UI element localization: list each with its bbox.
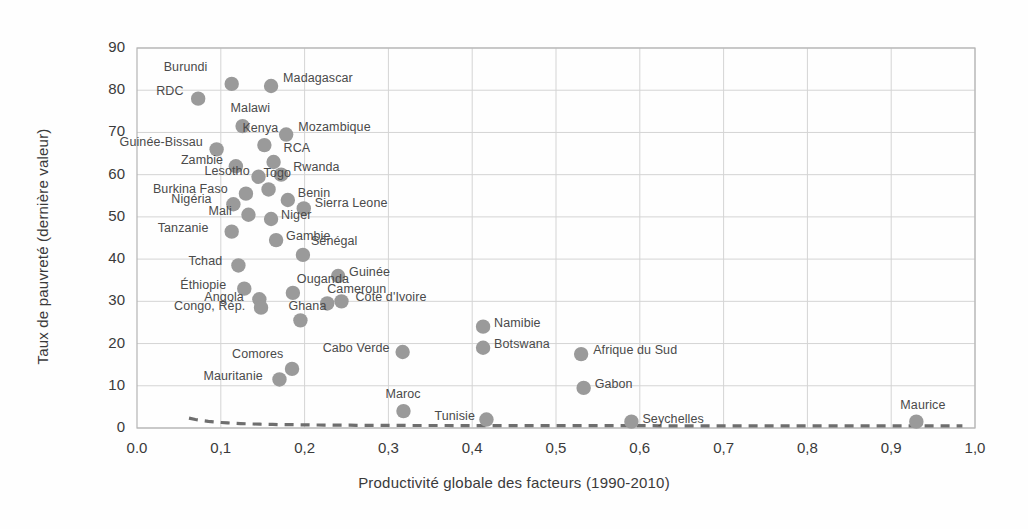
data-point-label: Botswana — [494, 337, 550, 351]
x-tick-label: 0,9 — [861, 439, 921, 456]
y-tick-label: 90 — [85, 38, 125, 55]
data-point-label: Tanzanie — [158, 221, 209, 235]
data-point-label: Namibie — [494, 316, 541, 330]
data-point-label: Mozambique — [298, 120, 371, 134]
x-tick-label: 0.0 — [107, 439, 167, 456]
data-point-label: Seychelles — [642, 412, 703, 426]
y-tick-label: 10 — [85, 376, 125, 393]
data-point — [264, 79, 278, 93]
data-point — [264, 212, 278, 226]
data-point — [191, 91, 205, 105]
data-point-label: Congo, Rép. — [174, 299, 245, 313]
y-tick-label: 30 — [85, 291, 125, 308]
data-point-label: Burundi — [164, 60, 208, 74]
data-point — [257, 138, 271, 152]
y-tick-label: 60 — [85, 165, 125, 182]
data-point — [476, 341, 490, 355]
data-point-label: RCA — [284, 141, 311, 155]
x-tick-label: 0,7 — [694, 439, 754, 456]
data-point-label: Sierra Leone — [315, 196, 388, 210]
data-point — [224, 224, 238, 238]
y-tick-label: 20 — [85, 334, 125, 351]
x-tick-label: 0,2 — [275, 439, 335, 456]
data-point-label: Lesotho — [205, 164, 250, 178]
y-tick-label: 80 — [85, 80, 125, 97]
data-point-label: Tunisie — [434, 409, 475, 423]
x-tick-label: 0,8 — [777, 439, 837, 456]
data-point-label: Togo — [264, 166, 292, 180]
x-tick-label: 0,6 — [610, 439, 670, 456]
data-point — [279, 127, 293, 141]
data-point-label: Cabo Verde — [323, 341, 390, 355]
data-point-label: Niger — [281, 208, 311, 222]
y-tick-label: 0 — [85, 418, 125, 435]
x-tick-label: 0,3 — [358, 439, 418, 456]
data-point — [285, 362, 299, 376]
data-point — [395, 345, 409, 359]
data-point — [261, 182, 275, 196]
data-point — [231, 258, 245, 272]
data-point-label: Sénégal — [311, 234, 358, 248]
data-point — [254, 300, 268, 314]
y-tick-label: 70 — [85, 122, 125, 139]
x-tick-label: 0,5 — [526, 439, 586, 456]
data-point — [272, 372, 286, 386]
data-point-label: Ghana — [288, 299, 326, 313]
data-point-label: Malawi — [231, 101, 271, 115]
x-tick-label: 0,4 — [442, 439, 502, 456]
data-point-label: Guinée-Bissau — [120, 135, 203, 149]
scatter-chart: BurundiMadagascarRDCMalawiMozambiqueKeny… — [0, 0, 1028, 529]
x-tick-label: 1,0 — [945, 439, 1005, 456]
data-point — [574, 347, 588, 361]
data-point — [476, 319, 490, 333]
y-tick-label: 40 — [85, 249, 125, 266]
data-point-label: Tchad — [188, 254, 222, 268]
data-point-label: RDC — [156, 84, 183, 98]
y-axis-title: Taux de pauvreté (dernière valeur) — [34, 87, 51, 407]
data-point — [224, 77, 238, 91]
y-tick-label: 50 — [85, 207, 125, 224]
data-point-label: Kenya — [242, 121, 278, 135]
data-point-label: Guinée — [349, 265, 390, 279]
data-point — [281, 193, 295, 207]
data-point — [479, 412, 493, 426]
data-point-label: Comores — [232, 347, 283, 361]
data-point — [286, 286, 300, 300]
data-point-label: Nigéria — [171, 192, 211, 206]
x-axis-title: Productivité globale des facteurs (1990-… — [0, 474, 1028, 491]
x-tick-label: 0,1 — [191, 439, 251, 456]
data-point-label: Rwanda — [293, 160, 339, 174]
data-point — [396, 404, 410, 418]
data-point-label: Gabon — [595, 377, 633, 391]
data-point — [296, 248, 310, 262]
data-point-label: Mauritanie — [203, 369, 262, 383]
data-point-label: Cameroun — [327, 282, 386, 296]
data-point-label: Maroc — [385, 387, 420, 401]
data-point — [624, 414, 638, 428]
data-point — [241, 208, 255, 222]
data-point-label: Afrique du Sud — [593, 343, 677, 357]
data-point — [239, 186, 253, 200]
data-point-label: Mali — [208, 204, 231, 218]
data-point — [269, 233, 283, 247]
data-point-label: Madagascar — [283, 71, 353, 85]
data-point-label: Maurice — [900, 398, 945, 412]
data-point — [909, 414, 923, 428]
data-point — [293, 313, 307, 327]
data-point — [576, 381, 590, 395]
